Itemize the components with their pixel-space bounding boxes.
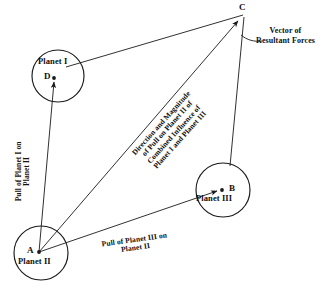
point-label-c: C	[239, 2, 246, 12]
planet-3-label: Planet III	[196, 194, 232, 204]
vector-resultant-caption: Vector of Resultant Forces	[256, 26, 315, 46]
vector-resultant-caption-line1: Vector of	[256, 26, 315, 36]
vector-resultant	[39, 21, 238, 252]
point-b-dot	[220, 188, 224, 192]
side-planet3-to-c	[230, 17, 244, 166]
force-label-pull-planet1-line2: Planet II	[23, 127, 31, 215]
point-label-a: A	[27, 245, 34, 255]
vector-resultant-caption-line2: Resultant Forces	[256, 36, 315, 46]
point-label-b: B	[229, 183, 235, 193]
point-d-dot	[52, 76, 56, 80]
planet-1-label: Planet I	[38, 57, 67, 67]
force-label-pull-planet1: Pull of Planet I on Planet II	[15, 127, 32, 215]
point-label-d: D	[44, 71, 51, 81]
side-planet1-to-c	[66, 15, 243, 67]
point-a-dot	[37, 250, 41, 254]
planet-2-label: Planet II	[18, 257, 51, 267]
force-vector-diagram: C D A B Planet I Planet II Planet III Pu…	[0, 0, 329, 296]
